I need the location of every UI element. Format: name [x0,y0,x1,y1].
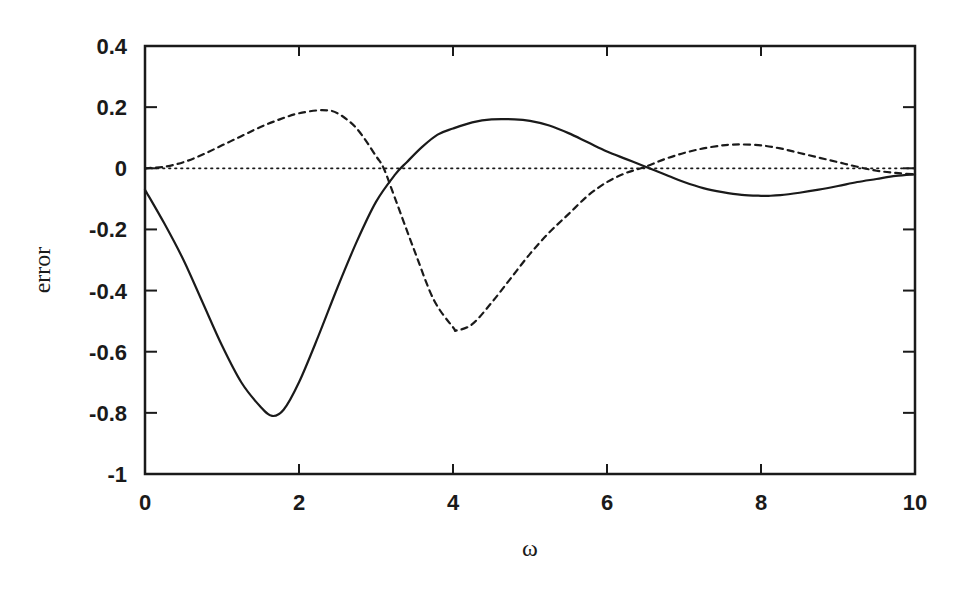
x-tick-label: 6 [601,490,613,515]
x-axis-label: ω [522,535,538,561]
x-tick-label: 4 [447,490,460,515]
y-tick-label: 0 [115,156,127,181]
y-tick-label: -0.8 [89,401,127,426]
x-tick-label: 8 [755,490,767,515]
y-axis-ticks: 0.40.20-0.2-0.4-0.6-0.8-1 [89,34,915,487]
y-axis-label: error [29,247,55,294]
x-axis-ticks: 0246810 [139,46,927,515]
error-vs-omega-chart: 0.40.20-0.2-0.4-0.6-0.8-1 0246810 ω erro… [0,0,958,594]
x-tick-label: 10 [903,490,927,515]
y-tick-label: -0.4 [89,279,128,304]
plot-frame [145,46,915,474]
plot-border [145,46,915,474]
y-tick-label: -1 [107,462,127,487]
series-layer [145,110,915,416]
y-tick-label: -0.6 [89,340,127,365]
x-tick-label: 2 [293,490,305,515]
series-dashed-line [145,110,915,331]
y-tick-label: -0.2 [89,217,127,242]
x-tick-label: 0 [139,490,151,515]
y-tick-label: 0.2 [96,95,127,120]
series-solid-line [145,119,915,416]
y-tick-label: 0.4 [96,34,127,59]
